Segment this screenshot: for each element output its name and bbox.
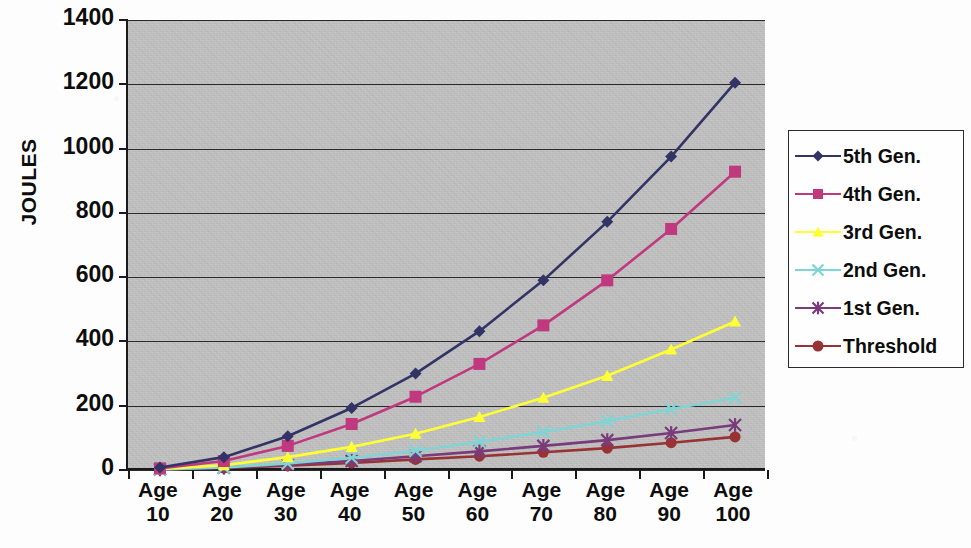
legend-item-4th-gen[interactable]: 4th Gen. bbox=[789, 175, 963, 213]
y-tick-mark bbox=[119, 212, 128, 214]
x-axis-tick-label: Age10 bbox=[126, 478, 190, 525]
legend-label: 4th Gen. bbox=[841, 183, 921, 206]
data-point-square bbox=[537, 319, 549, 331]
legend-swatch-1st-gen bbox=[795, 298, 841, 318]
y-tick-mark bbox=[119, 469, 128, 471]
data-point-square bbox=[346, 418, 358, 430]
data-point-square bbox=[813, 189, 823, 199]
y-axis-tick-label: 1000 bbox=[28, 133, 114, 160]
y-axis-tick-label: 1200 bbox=[28, 68, 114, 95]
data-point-triangle bbox=[729, 316, 741, 327]
legend-swatch-3rd-gen bbox=[795, 222, 841, 242]
x-axis-tick-labels: Age10Age20Age30Age40Age50Age60Age70Age80… bbox=[126, 478, 765, 540]
legend-label: 1st Gen. bbox=[841, 297, 920, 320]
x-tick-mark bbox=[767, 470, 769, 479]
data-point-square bbox=[601, 274, 613, 286]
legend-label: Threshold bbox=[841, 335, 937, 358]
y-tick-mark bbox=[119, 148, 128, 150]
data-point-circle bbox=[730, 431, 741, 442]
legend: 5th Gen.4th Gen.3rd Gen.2nd Gen.1st Gen.… bbox=[788, 130, 964, 368]
y-tick-mark bbox=[119, 405, 128, 407]
legend-label: 3rd Gen. bbox=[841, 221, 922, 244]
legend-item-5th-gen[interactable]: 5th Gen. bbox=[789, 137, 963, 175]
x-axis-tick-label: Age80 bbox=[573, 478, 637, 525]
y-axis-tick-label: 0 bbox=[28, 454, 114, 481]
y-axis-tick-label: 200 bbox=[28, 390, 114, 417]
legend-marker-circle-icon bbox=[810, 338, 826, 354]
legend-swatch-threshold bbox=[795, 336, 841, 356]
x-axis-tick-label: Age30 bbox=[254, 478, 318, 525]
y-tick-mark bbox=[119, 83, 128, 85]
x-axis-tick-label: Age60 bbox=[445, 478, 509, 525]
y-axis-tick-label: 400 bbox=[28, 325, 114, 352]
legend-label: 5th Gen. bbox=[841, 145, 921, 168]
y-axis-tick-label: 800 bbox=[28, 197, 114, 224]
legend-label: 2nd Gen. bbox=[841, 259, 926, 282]
data-point-circle bbox=[813, 341, 824, 352]
legend-item-2nd-gen[interactable]: 2nd Gen. bbox=[789, 251, 963, 289]
line-chart: JOULES 0200400600800100012001400 Age10Ag… bbox=[0, 0, 971, 548]
legend-marker-asterisk-icon bbox=[810, 300, 826, 316]
series-4th-gen bbox=[154, 166, 741, 475]
legend-item-3rd-gen[interactable]: 3rd Gen. bbox=[789, 213, 963, 251]
plot-area bbox=[126, 20, 765, 470]
data-point-asterisk bbox=[813, 302, 824, 315]
data-point-triangle bbox=[813, 227, 824, 237]
data-point-square bbox=[410, 391, 422, 403]
y-tick-mark bbox=[119, 19, 128, 21]
legend-item-threshold[interactable]: Threshold bbox=[789, 327, 963, 365]
y-tick-mark bbox=[119, 276, 128, 278]
x-axis-tick-label: Age70 bbox=[509, 478, 573, 525]
series-line bbox=[160, 172, 735, 469]
data-point-x bbox=[813, 265, 824, 276]
legend-marker-square-icon bbox=[810, 186, 826, 202]
x-axis-tick-label: Age90 bbox=[637, 478, 701, 525]
legend-marker-diamond-icon bbox=[810, 148, 826, 164]
series-5th-gen bbox=[154, 77, 741, 474]
legend-swatch-2nd-gen bbox=[795, 260, 841, 280]
data-point-square bbox=[729, 166, 741, 178]
y-axis-tick-label: 600 bbox=[28, 261, 114, 288]
y-axis-tick-labels: 0200400600800100012001400 bbox=[28, 0, 114, 548]
data-point-diamond bbox=[813, 151, 824, 162]
data-point-square bbox=[665, 223, 677, 235]
data-point-diamond bbox=[346, 402, 358, 414]
x-axis-tick-label: Age50 bbox=[382, 478, 446, 525]
legend-marker-triangle-icon bbox=[810, 224, 826, 240]
x-axis-tick-label: Age20 bbox=[190, 478, 254, 525]
series-line bbox=[160, 83, 735, 468]
data-point-square bbox=[473, 358, 485, 370]
series-lines bbox=[128, 20, 767, 470]
legend-swatch-4th-gen bbox=[795, 184, 841, 204]
legend-swatch-5th-gen bbox=[795, 146, 841, 166]
y-axis-tick-label: 1400 bbox=[28, 4, 114, 31]
legend-marker-x-icon bbox=[810, 262, 826, 278]
x-axis-tick-label: Age40 bbox=[318, 478, 382, 525]
legend-item-1st-gen[interactable]: 1st Gen. bbox=[789, 289, 963, 327]
y-tick-mark bbox=[119, 340, 128, 342]
x-axis-tick-label: Age100 bbox=[701, 478, 765, 525]
